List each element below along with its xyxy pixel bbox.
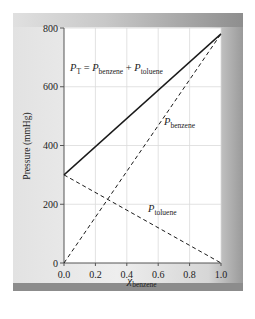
x-tick-label: 0.2 — [89, 269, 102, 280]
x-tick-label: 0.0 — [58, 269, 71, 280]
y-tick-label: 0 — [53, 258, 58, 269]
x-tick-label: 0.8 — [183, 269, 196, 280]
x-tick-label: 0.6 — [152, 269, 165, 280]
x-tick-label: 1.0 — [215, 269, 228, 280]
x-ticks: 0.00.20.40.60.81.0 — [58, 263, 228, 280]
y-tick-label: 800 — [43, 23, 58, 34]
y-tick-label: 200 — [43, 199, 58, 210]
y-axis-label: Pressure (mmHg) — [22, 112, 33, 179]
vapor-pressure-chart: 0200400600800 0.00.20.40.60.81.0 PT = Pb… — [0, 0, 255, 319]
y-tick-label: 400 — [43, 140, 58, 151]
y-tick-label: 600 — [43, 81, 58, 92]
y-ticks: 0200400600800 — [43, 23, 64, 269]
